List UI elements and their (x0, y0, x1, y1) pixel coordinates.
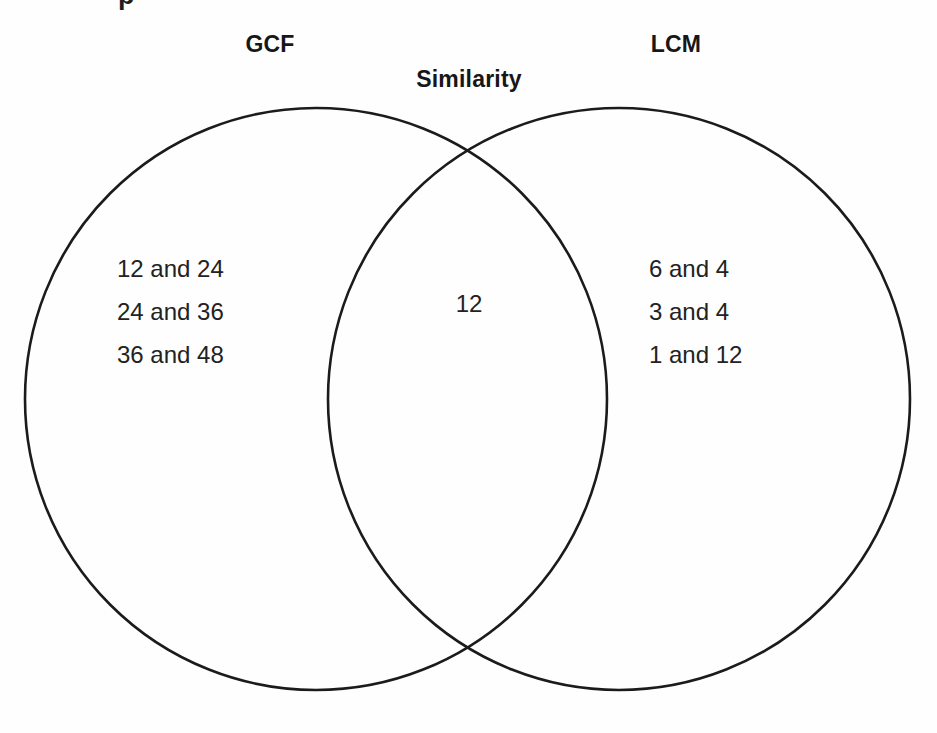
region-left-item: 24 and 36 (117, 290, 224, 333)
region-right-item: 3 and 4 (649, 290, 742, 333)
region-left-only-items: 12 and 24 24 and 36 36 and 48 (117, 247, 224, 376)
venn-diagram-figure: p GCF LCM Similarity 12 and 24 24 and 36… (0, 0, 937, 733)
region-left-item: 12 and 24 (117, 247, 224, 290)
venn-circle-right-lcm (328, 108, 910, 690)
venn-circle-left-gcf (25, 108, 607, 690)
heading-right-set-lcm: LCM (651, 31, 701, 58)
heading-left-set-gcf: GCF (245, 31, 294, 58)
region-left-item: 36 and 48 (117, 333, 224, 376)
region-right-item: 1 and 12 (649, 333, 742, 376)
region-right-item: 6 and 4 (649, 247, 742, 290)
heading-intersection-similarity: Similarity (416, 66, 522, 93)
region-intersection-item: 12 (456, 290, 483, 318)
region-right-only-items: 6 and 4 3 and 4 1 and 12 (649, 247, 742, 376)
